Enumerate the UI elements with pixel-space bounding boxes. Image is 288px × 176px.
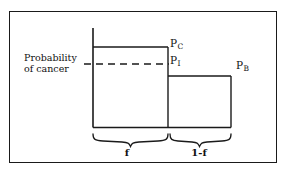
- label-pb: PB: [236, 60, 249, 71]
- label-pi: PI: [170, 55, 180, 66]
- brace-f: [93, 134, 168, 147]
- label-pb-subscript: B: [243, 64, 249, 73]
- label-pi-subscript: I: [177, 59, 180, 68]
- y-axis-label-line2: of cancer: [24, 64, 86, 75]
- figure-root: Probability of cancer PC PI PB f 1-f: [0, 0, 288, 176]
- label-fraction-f: f: [92, 148, 162, 158]
- label-pc-subscript: C: [177, 42, 183, 51]
- brace-one-minus-f: [170, 134, 231, 147]
- y-axis-label: Probability of cancer: [24, 53, 86, 74]
- label-pc: PC: [170, 38, 183, 49]
- label-fraction-one-minus-f: 1-f: [167, 148, 231, 158]
